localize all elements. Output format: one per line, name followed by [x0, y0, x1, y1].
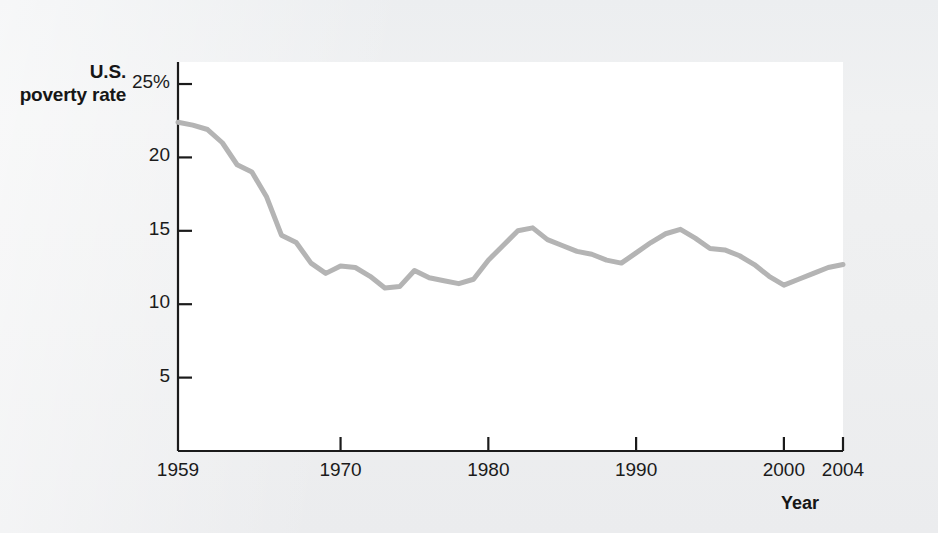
- chart-tick-marks: [178, 84, 843, 451]
- y-tick-label-25: 25%: [118, 71, 170, 93]
- y-tick-label-10: 10: [118, 291, 170, 313]
- y-tick-label-20: 20: [118, 144, 170, 166]
- x-tick-label-1980: 1980: [453, 459, 523, 481]
- x-tick-label-1990: 1990: [601, 459, 671, 481]
- x-tick-label-2004: 2004: [808, 459, 878, 481]
- poverty-rate-line: [178, 122, 843, 288]
- y-axis-title: U.S. poverty rate: [18, 60, 126, 106]
- x-tick-label-1959: 1959: [143, 459, 213, 481]
- y-tick-label-5: 5: [118, 365, 170, 387]
- chart-page: U.S. poverty rate Year 25%2015105 195919…: [0, 0, 938, 533]
- y-tick-label-15: 15: [118, 218, 170, 240]
- x-axis-title: Year: [760, 492, 840, 515]
- x-tick-label-1970: 1970: [306, 459, 376, 481]
